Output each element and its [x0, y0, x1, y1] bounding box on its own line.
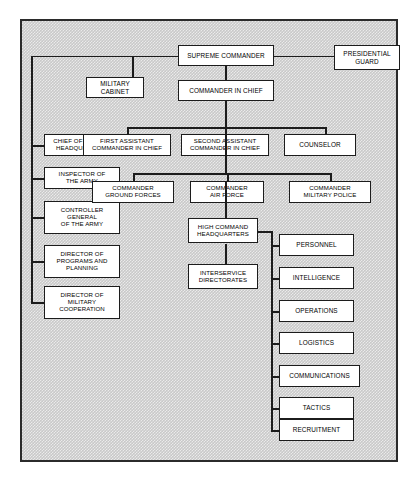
- node-directorate-recruitment[interactable]: RECRUITMENT: [279, 419, 354, 441]
- connector-bus-to-military-cabinet: [132, 56, 134, 78]
- chart-panel: SUPREME COMMANDER PRESIDENTIAL GUARD MIL…: [20, 19, 398, 462]
- node-first-assistant-commander-in-chief[interactable]: FIRST ASSISTANT COMMANDER IN CHIEF: [83, 134, 171, 156]
- node-military-cabinet[interactable]: MILITARY CABINET: [86, 77, 144, 98]
- commanders-bus: [133, 173, 331, 175]
- connector-high-command-to-right-spine: [258, 231, 272, 233]
- node-director-of-military-cooperation[interactable]: DIRECTOR OF MILITARY COOPERATION: [44, 286, 120, 319]
- connector-high-command-to-interservice: [225, 244, 227, 265]
- connector-spine-to-director-programs: [31, 261, 44, 263]
- node-supreme-commander[interactable]: SUPREME COMMANDER: [178, 45, 274, 66]
- node-presidential-guard[interactable]: PRESIDENTIAL GUARD: [334, 45, 400, 70]
- organizational-chart: SUPREME COMMANDER PRESIDENTIAL GUARD MIL…: [0, 0, 416, 483]
- node-directorate-intelligence[interactable]: INTELLIGENCE: [279, 267, 354, 289]
- node-commander-military-police[interactable]: COMMANDER MILITARY POLICE: [289, 181, 371, 203]
- node-high-command-headquarters[interactable]: HIGH COMMAND HEADQUARTERS: [188, 218, 258, 243]
- connector-cinc-down: [225, 100, 227, 128]
- node-directorate-tactics[interactable]: TACTICS: [279, 397, 354, 419]
- connector-spine-to-chief-special-hq: [31, 145, 44, 147]
- right-spine: [271, 231, 273, 430]
- center-spine-assistants-to-commanders: [225, 135, 227, 174]
- node-counselor[interactable]: COUNSELOR: [284, 134, 356, 156]
- center-spine-to-high-command: [225, 182, 227, 219]
- connector-spine-to-inspector-army: [31, 178, 44, 180]
- node-commander-in-chief[interactable]: COMMANDER IN CHIEF: [178, 80, 274, 101]
- node-director-of-programs-and-planning[interactable]: DIRECTOR OF PROGRAMS AND PLANNING: [44, 245, 120, 278]
- node-interservice-directorates[interactable]: INTERSERVICE DIRECTORATES: [188, 264, 258, 289]
- connector-spine-to-controller-general: [31, 217, 44, 219]
- node-directorate-personnel[interactable]: PERSONNEL: [279, 234, 354, 256]
- connector-supreme-left-bus: [31, 56, 178, 58]
- connector-supreme-to-presidential-guard: [274, 56, 334, 58]
- node-controller-general-of-the-army[interactable]: CONTROLLER GENERAL OF THE ARMY: [44, 201, 120, 234]
- node-commander-air-force[interactable]: COMMANDER AIR FORCE: [190, 181, 264, 203]
- node-directorate-communications[interactable]: COMMUNICATIONS: [279, 365, 360, 387]
- node-commander-ground-forces[interactable]: COMMANDER GROUND FORCES: [92, 181, 174, 203]
- node-directorate-operations[interactable]: OPERATIONS: [279, 300, 354, 322]
- node-directorate-logistics[interactable]: LOGISTICS: [279, 332, 354, 354]
- connector-spine-to-director-military-coop: [31, 302, 44, 304]
- connector-supreme-to-cinc: [225, 65, 227, 81]
